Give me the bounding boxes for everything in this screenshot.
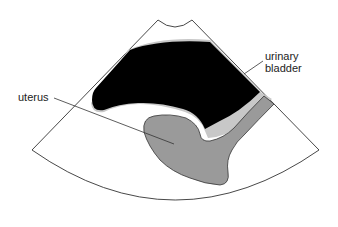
label-uterus: uterus <box>18 91 49 103</box>
ultrasound-diagram <box>0 0 338 227</box>
label-urinary: urinary <box>265 50 299 62</box>
bladder-leader-line <box>244 61 263 74</box>
label-bladder: bladder <box>265 62 302 74</box>
